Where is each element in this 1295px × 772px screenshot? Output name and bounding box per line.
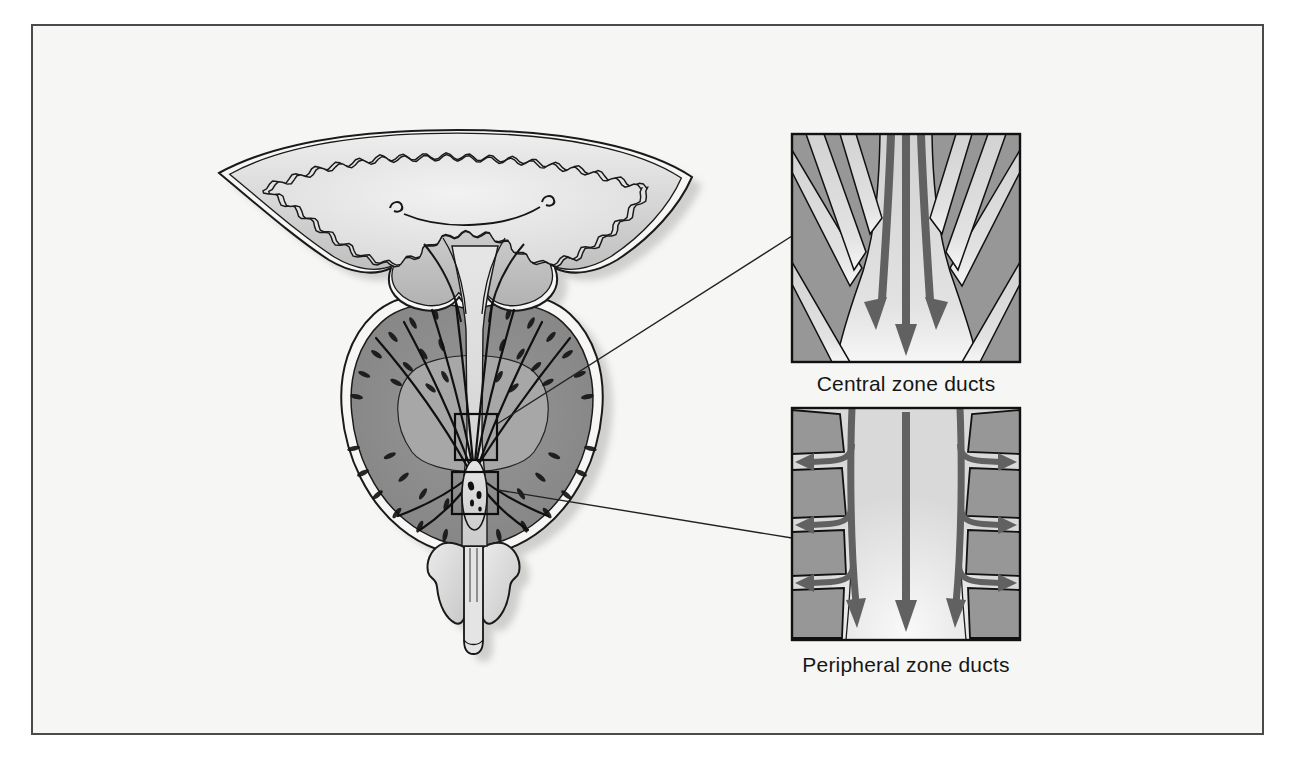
verumontanum [462, 460, 487, 530]
membranous-urethra-tube [464, 546, 483, 654]
bladder-illustration [219, 130, 692, 311]
central-zone-ducts-label: Central zone ducts [780, 372, 1032, 396]
peripheral-zone-ducts-label: Peripheral zone ducts [780, 653, 1032, 677]
anatomy-illustration [0, 0, 1295, 772]
figure-page: Central zone ducts Peripheral zone ducts [0, 0, 1295, 772]
inset-peripheral-zone-ducts [792, 408, 1020, 640]
inset-central-zone-ducts [792, 134, 1020, 362]
